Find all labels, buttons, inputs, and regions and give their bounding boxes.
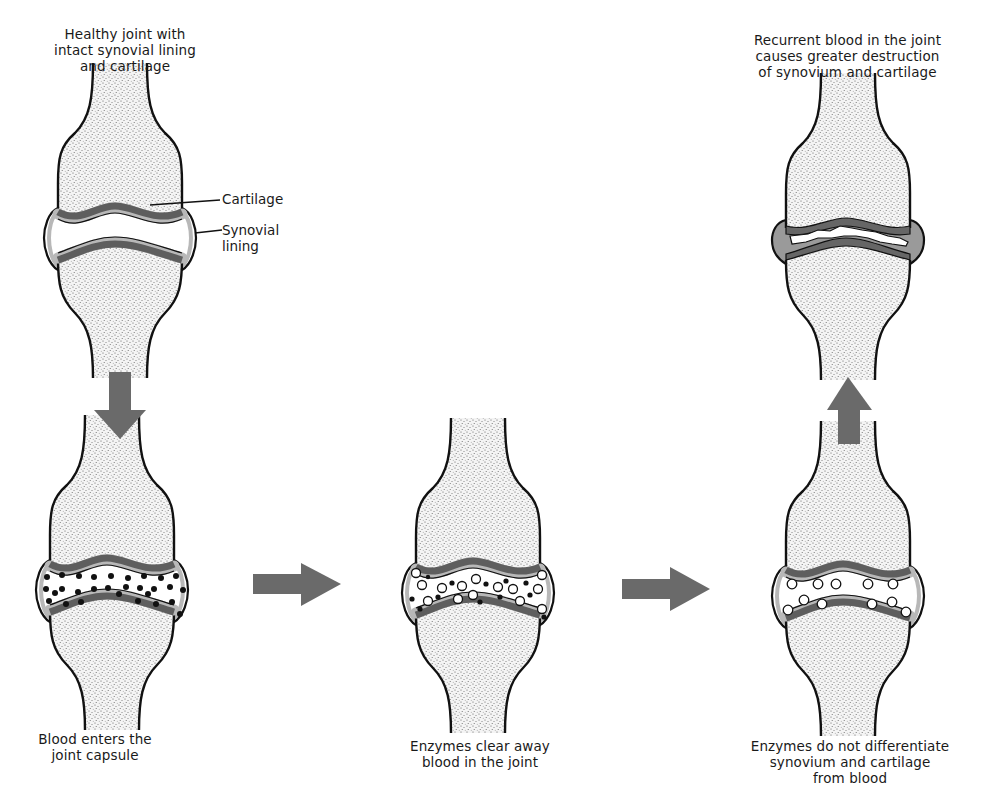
caption-blood-enters: Blood enters the joint capsule <box>20 731 170 763</box>
arrow-right-1 <box>253 563 341 606</box>
joint-diagram <box>0 0 982 808</box>
caption-recurrent: Recurrent blood in the joint causes grea… <box>735 32 960 80</box>
caption-enzymes-no-differentiate: Enzymes do not differentiate synovium an… <box>730 738 970 786</box>
synovial-leader-line <box>195 230 222 233</box>
healthy-joint-illustration <box>44 63 222 378</box>
label-synovial-lining: Synovial lining <box>222 222 279 254</box>
arrow-right-2 <box>622 567 710 611</box>
caption-enzymes-clear: Enzymes clear away blood in the joint <box>390 738 570 770</box>
enzymes-no-differentiate-illustration <box>772 421 924 736</box>
label-cartilage: Cartilage <box>222 191 283 207</box>
enzymes-clear-illustration <box>402 418 554 733</box>
blood-enters-illustration <box>36 415 188 730</box>
caption-healthy: Healthy joint with intact synovial linin… <box>35 26 215 74</box>
recurrent-destruction-illustration <box>772 73 924 380</box>
